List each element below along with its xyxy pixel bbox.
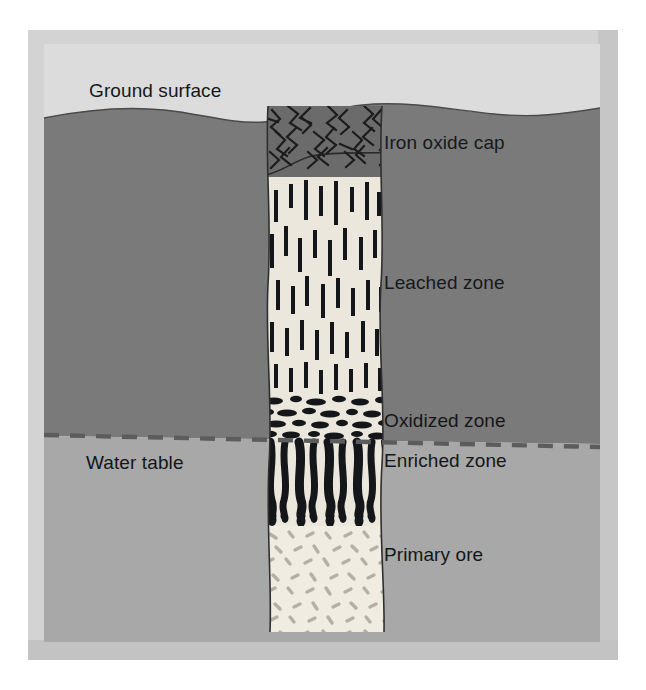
cross-section-plate: Ground surface Iron oxide cap Leached zo… (44, 44, 600, 642)
primary-ore-fill (259, 526, 399, 642)
label-enriched-zone: Enriched zone (384, 450, 507, 472)
figure-frame-bevel-right (598, 30, 618, 660)
label-leached-zone: Leached zone (384, 272, 505, 294)
label-ground-surface: Ground surface (89, 80, 221, 102)
label-water-table: Water table (86, 452, 184, 474)
label-primary-ore: Primary ore (384, 544, 483, 566)
figure-page: Ground surface Iron oxide cap Leached zo… (0, 0, 646, 690)
figure-frame-bevel-bottom (28, 640, 618, 660)
label-oxidized-zone: Oxidized zone (384, 410, 506, 432)
cross-section-drawing (44, 44, 600, 642)
label-iron-oxide-cap: Iron oxide cap (384, 132, 505, 154)
